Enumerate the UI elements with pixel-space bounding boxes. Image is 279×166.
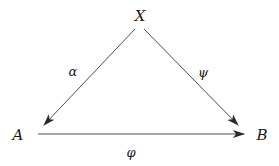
node-x-label: X <box>135 9 146 24</box>
edge-alpha-label: α <box>69 65 78 78</box>
diagram-arrows <box>0 0 279 166</box>
edge-psi-label: ψ <box>198 66 208 79</box>
commutative-diagram: X A B α ψ φ <box>0 0 279 166</box>
node-b-label: B <box>256 128 267 143</box>
arrow-psi <box>144 29 238 125</box>
arrow-alpha <box>44 29 135 125</box>
edge-phi-label: φ <box>126 146 135 159</box>
node-a-label: A <box>13 128 24 143</box>
